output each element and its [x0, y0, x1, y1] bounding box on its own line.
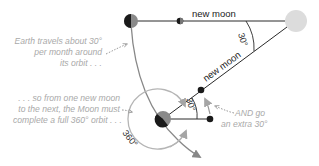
moon-icon-top: [177, 18, 184, 25]
svg-text:Earth travels about 30°: Earth travels about 30°: [14, 36, 102, 46]
new-moon-label-diagonal: new moon: [201, 49, 243, 84]
new-moon-label-top: new moon: [192, 8, 236, 19]
note-extra-pointer: [215, 106, 234, 113]
moon-icon-diagonal: [198, 87, 205, 94]
svg-text:AND go: AND go: [234, 108, 265, 118]
note-earth-travel-pointer: [106, 44, 127, 54]
sun-angle-label: 30°: [236, 32, 250, 48]
svg-text:its orbit . . .: its orbit . . .: [60, 58, 102, 68]
note-full-orbit-pointer: [122, 110, 132, 112]
full-orbit-angle-label: 360°: [120, 128, 140, 149]
svg-text:. . . so from one new moon: . . . so from one new moon: [18, 93, 120, 103]
earth-icon-top: [124, 14, 138, 28]
sun-line-diagonal: [163, 27, 287, 119]
extra-angle-arrow: [205, 99, 210, 114]
svg-text:complete a full 360° orbit . .: complete a full 360° orbit . . .: [13, 115, 122, 125]
svg-text:an extra 30°: an extra 30°: [221, 119, 268, 129]
note-extra: AND go an extra 30°: [221, 108, 268, 129]
svg-text:to the next, the Moon must: to the next, the Moon must: [18, 104, 120, 114]
sun-icon: [285, 10, 307, 32]
note-full-orbit: . . . so from one new moon to the next, …: [13, 93, 122, 125]
note-earth-travel: Earth travels about 30° per month around…: [14, 36, 102, 68]
moon-icon-extra: [207, 116, 214, 123]
svg-text:per month around: per month around: [33, 47, 102, 57]
diagram-canvas: new moon new moon 30° 30° 360° Earth tra…: [0, 0, 319, 166]
earth-angle-label: 30°: [184, 97, 198, 113]
lunar-month-diagram: new moon new moon 30° 30° 360° Earth tra…: [0, 0, 319, 166]
